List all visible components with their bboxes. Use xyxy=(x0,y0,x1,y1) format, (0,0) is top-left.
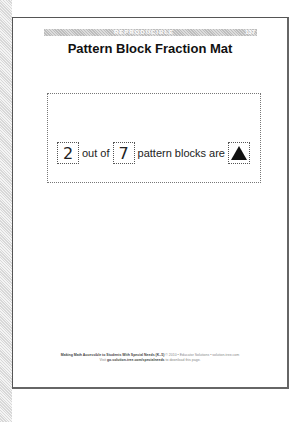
fraction-sentence: 2 out of 7 pattern blocks are xyxy=(48,140,260,166)
banner-label: REPRODUCIBLE xyxy=(114,28,174,37)
copyright-text: © 2010 • Educator Solutions • solution-t… xyxy=(165,353,239,357)
denominator-value: 7 xyxy=(118,144,128,163)
document-page: REPRODUCIBLE 137 Pattern Block Fraction … xyxy=(12,17,289,389)
numerator-box: 2 xyxy=(57,142,79,164)
page-edge-shadow xyxy=(0,0,12,422)
visit-prefix: Visit xyxy=(99,358,106,362)
phrase-text: pattern blocks are xyxy=(138,147,225,159)
download-link[interactable]: go.solution-tree.com/specialneeds xyxy=(107,358,165,362)
book-title: Making Math Accessible to Students With … xyxy=(61,353,165,357)
visit-suffix: to download this page. xyxy=(166,358,201,362)
reproducible-banner: REPRODUCIBLE 137 xyxy=(44,29,257,36)
denominator-box: 7 xyxy=(113,142,135,164)
numerator-value: 2 xyxy=(63,144,73,163)
triangle-icon xyxy=(231,146,247,160)
connector-text: out of xyxy=(82,147,110,159)
page-title: Pattern Block Fraction Mat xyxy=(13,41,287,56)
page-number: 137 xyxy=(245,28,255,37)
shape-box xyxy=(228,142,250,164)
fraction-mat: 2 out of 7 pattern blocks are xyxy=(47,93,261,183)
copyright-footer: Making Math Accessible to Students With … xyxy=(13,353,287,363)
